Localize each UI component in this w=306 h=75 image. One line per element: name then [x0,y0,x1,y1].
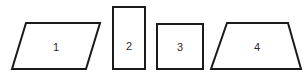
shapes-figure: 1 2 3 4 [0,0,306,75]
shape-group-3[interactable]: 3 [157,24,203,69]
shape-group-2[interactable]: 2 [113,7,145,69]
shape-group-1[interactable]: 1 [12,23,100,69]
rectangle-shape-2[interactable] [113,7,145,69]
shape-group-4[interactable]: 4 [211,23,301,69]
shape-label-3: 3 [177,41,183,53]
shape-label-4: 4 [254,41,260,53]
shape-label-2: 2 [126,40,132,52]
shapes-diagram: 1 2 3 4 [0,0,306,75]
shape-label-1: 1 [53,41,59,53]
